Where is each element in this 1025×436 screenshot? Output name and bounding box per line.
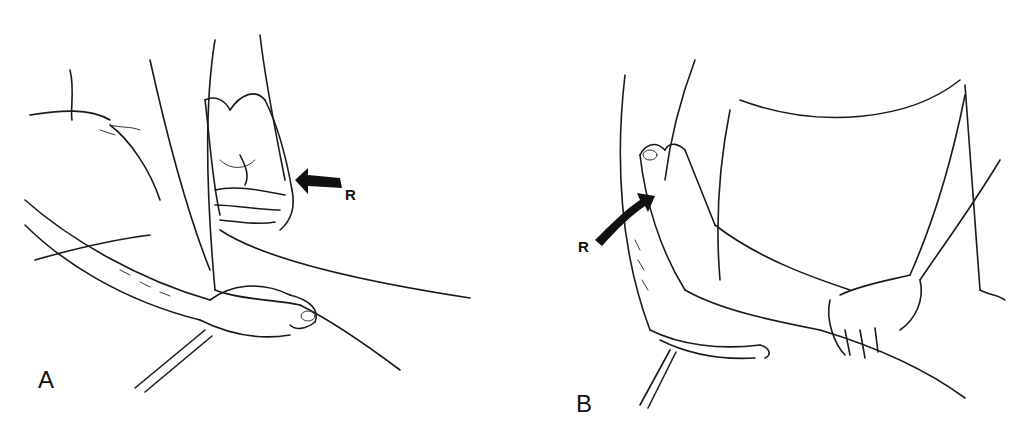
arrow-label-r-a: R: [345, 186, 356, 203]
panel-label-b: B: [576, 390, 592, 418]
panel-a: R A: [0, 0, 500, 436]
resistance-arrow-icon: [595, 193, 655, 246]
panel-b-drawing: [520, 0, 1025, 436]
panel-b: R B: [520, 0, 1025, 436]
panel-label-a: A: [38, 366, 54, 394]
resistance-arrow-icon: [295, 168, 342, 194]
arrow-label-r-b: R: [578, 238, 589, 255]
panel-a-drawing: [0, 0, 500, 436]
